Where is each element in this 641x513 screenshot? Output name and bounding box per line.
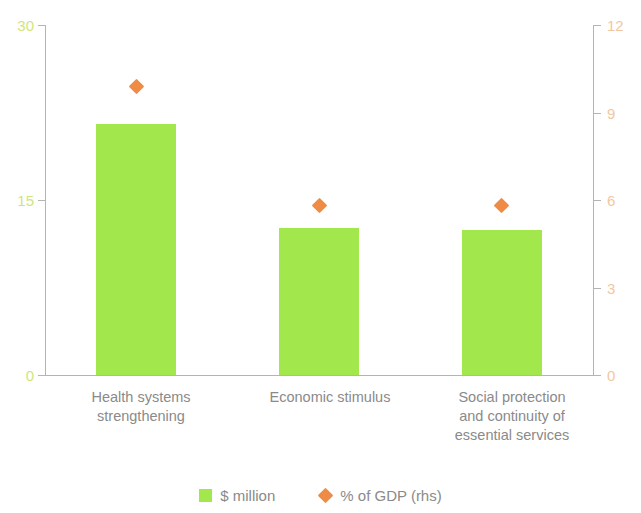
legend-square-icon xyxy=(199,489,212,502)
left-axis-tick-0 xyxy=(38,375,46,376)
right-axis-label-9: 9 xyxy=(607,106,641,121)
right-axis-label-6: 6 xyxy=(607,193,641,208)
left-axis-tick-30 xyxy=(38,25,46,26)
legend-item-dollar-million: $ million xyxy=(199,487,275,504)
legend-item-percent-of-gdp: % of GDP (rhs) xyxy=(319,487,441,504)
bar-social-protection xyxy=(462,230,542,375)
right-axis-tick-12 xyxy=(593,25,601,26)
category-label-economic-stimulus: Economic stimulus xyxy=(240,388,420,407)
right-axis-tick-9 xyxy=(593,113,601,114)
legend-label-dollar-million: $ million xyxy=(220,487,275,504)
bar-economic-stimulus xyxy=(279,228,359,375)
bar-health-systems-strengthening xyxy=(96,124,176,375)
right-axis-label-12: 12 xyxy=(607,18,641,33)
chart-container: 30 15 0 12 9 6 3 0 Health systems streng… xyxy=(0,0,641,513)
chart-legend: $ million % of GDP (rhs) xyxy=(0,487,641,504)
right-axis-label-3: 3 xyxy=(607,281,641,296)
legend-label-percent-of-gdp: % of GDP (rhs) xyxy=(340,487,441,504)
marker-gdp-social-protection xyxy=(494,198,510,214)
right-axis-tick-3 xyxy=(593,288,601,289)
right-axis-tick-6 xyxy=(593,200,601,201)
left-axis-tick-15 xyxy=(38,200,46,201)
left-axis-label-0: 0 xyxy=(0,368,34,383)
left-axis-label-15: 15 xyxy=(0,193,34,208)
right-axis-label-0: 0 xyxy=(607,368,641,383)
legend-diamond-icon xyxy=(318,488,334,504)
marker-gdp-health-systems-strengthening xyxy=(129,78,145,94)
marker-gdp-economic-stimulus xyxy=(311,198,327,214)
category-label-social-protection: Social protection and continuity of esse… xyxy=(422,388,602,445)
left-axis-label-30: 30 xyxy=(0,18,34,33)
right-axis-tick-0 xyxy=(593,375,601,376)
left-axis-labels: 30 15 0 xyxy=(0,0,34,513)
category-label-health-systems-strengthening: Health systems strengthening xyxy=(51,388,231,426)
right-axis-labels: 12 9 6 3 0 xyxy=(607,0,641,513)
bottom-axis-line xyxy=(45,375,594,376)
